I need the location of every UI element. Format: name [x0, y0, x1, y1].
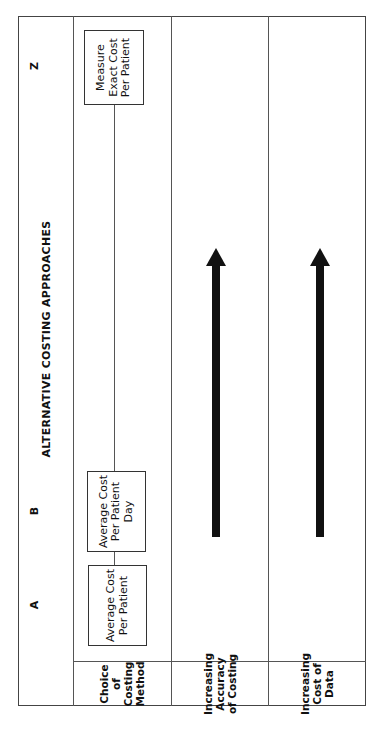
accuracy-arrow-head-icon [206, 248, 226, 266]
connector-a-b [114, 551, 115, 565]
row-header-accuracy: Increasing Accuracy of Costing [171, 662, 268, 706]
method-box-b: Average Cost Per Patient Day [87, 471, 146, 552]
cost-of-data-arrow [316, 248, 324, 537]
cost-of-data-arrow-head-icon [310, 248, 330, 266]
row-header-cost-of-data: Increasing Cost of Data [268, 662, 366, 706]
method-box-a: Average Cost Per Patient [88, 565, 147, 646]
column-letter-z: Z [28, 51, 41, 81]
connector-b-z [114, 105, 115, 471]
accuracy-row-divider [268, 16, 269, 706]
accuracy-arrow [212, 248, 220, 537]
method-box-z: Measure Exact Cost Per Patient [84, 30, 144, 105]
diagram-stage: ALTERNATIVE COSTING APPROACHES A B Z Cho… [0, 0, 382, 736]
column-letter-a: A [28, 590, 41, 620]
accuracy-arrow-shaft [212, 263, 220, 537]
cost-of-data-arrow-shaft [316, 263, 324, 537]
row-header-costing-method: Choice of Costing Method [73, 662, 171, 706]
diagram-title: ALTERNATIVE COSTING APPROACHES [18, 16, 74, 662]
column-letter-b: B [28, 496, 41, 526]
method-row-divider [171, 16, 172, 706]
